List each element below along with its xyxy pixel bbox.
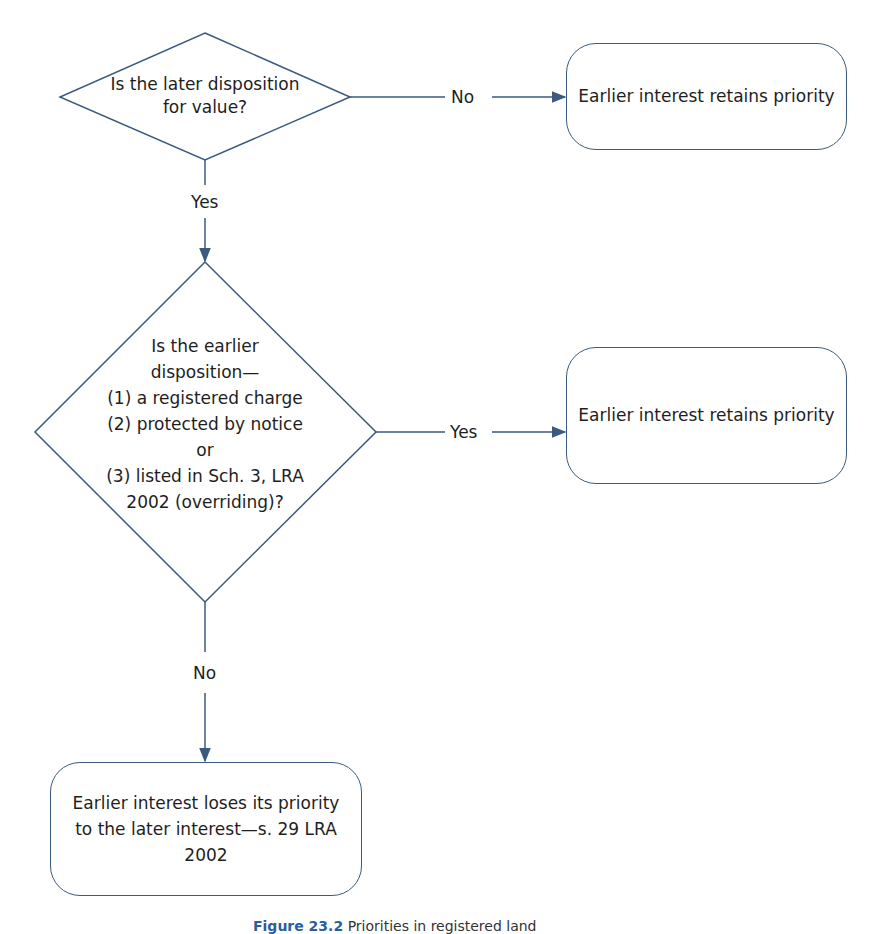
decision-2-line: 2002 (overriding)? <box>75 489 335 515</box>
outcome-2-text: Earlier interest retains priority <box>578 404 834 427</box>
outcome-3-line: 2002 <box>184 842 227 868</box>
decision-1-text: Is the later disposition for value? <box>90 73 320 119</box>
edge-2-no-label: No <box>189 663 220 683</box>
outcome-2-box: Earlier interest retains priority <box>566 347 847 484</box>
figure-number: Figure 23.2 <box>253 918 343 934</box>
outcome-1-box: Earlier interest retains priority <box>566 43 847 150</box>
outcome-3-box: Earlier interest loses its priority to t… <box>50 762 362 896</box>
decision-2-line: disposition— <box>75 359 335 385</box>
decision-2-line: Is the earlier <box>75 333 335 359</box>
decision-2-line: (2) protected by notice <box>75 411 335 437</box>
decision-1-line-2: for value? <box>90 96 320 119</box>
outcome-3-line: to the later interest—s. 29 LRA <box>75 816 337 842</box>
edge-2-yes-label: Yes <box>446 422 481 442</box>
edge-1-yes-label: Yes <box>187 192 222 212</box>
decision-2-line: or <box>75 437 335 463</box>
decision-1-line-1: Is the later disposition <box>90 73 320 96</box>
decision-2-line: (1) a registered charge <box>75 385 335 411</box>
outcome-3-line: Earlier interest loses its priority <box>73 790 340 816</box>
decision-2-line: (3) listed in Sch. 3, LRA <box>75 463 335 489</box>
figure-title: Priorities in registered land <box>348 918 537 934</box>
edge-1-no-label: No <box>447 87 478 107</box>
decision-2-text: Is the earlier disposition— (1) a regist… <box>75 333 335 515</box>
figure-caption: Figure 23.2 Priorities in registered lan… <box>253 918 537 934</box>
outcome-1-text: Earlier interest retains priority <box>578 85 834 108</box>
